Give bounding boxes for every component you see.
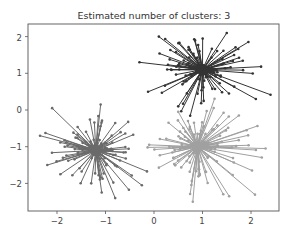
x-tick-label: 2 [248,216,253,226]
cluster-1-series [138,32,272,117]
plot-area [39,32,272,203]
y-tick-label: 2 [17,33,22,43]
y-tick-label: −1 [9,142,22,152]
x-tick-label: 1 [199,216,204,226]
y-tick-label: 0 [17,105,22,115]
x-axis: −2 −1 0 1 2 [51,216,254,226]
y-tick-label: 1 [17,68,22,78]
x-tick-label: −2 [51,216,64,226]
cluster-2-series [39,103,149,199]
cluster-center-marker [90,144,102,156]
cluster-3-series [146,97,267,203]
chart-title: Estimated number of clusters: 3 [78,10,231,21]
cluster-center-marker [192,141,204,153]
cluster-chart: Estimated number of clusters: 3 −2 −1 0 … [0,0,294,236]
x-tick-label: 0 [151,216,156,226]
y-tick-label: −2 [9,179,22,189]
y-axis: 2 1 0 −1 −2 [9,33,22,189]
x-tick-label: −1 [100,216,113,226]
cluster-center-marker [197,64,209,76]
